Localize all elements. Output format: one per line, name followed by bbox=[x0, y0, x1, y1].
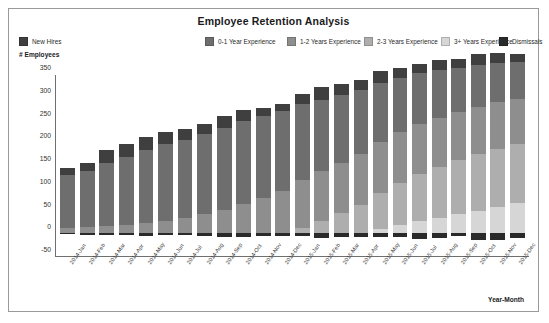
bar-segment bbox=[99, 150, 114, 164]
legend-swatch-icon bbox=[287, 37, 296, 46]
bar-segment bbox=[314, 100, 329, 172]
bar-column: 2015-Aug bbox=[429, 75, 449, 256]
bar-segment bbox=[314, 221, 329, 234]
bar-segment bbox=[334, 95, 349, 162]
bar-segment bbox=[314, 87, 329, 99]
bar-column: 2015-Apr bbox=[351, 75, 371, 256]
dismissals-bar-segment bbox=[217, 233, 232, 237]
dismissals-bar-segment bbox=[373, 233, 388, 237]
bar-segment bbox=[236, 204, 251, 233]
bar-segment bbox=[99, 226, 114, 233]
legend-label: 1-2 Years Experience bbox=[300, 38, 361, 45]
bar-segment bbox=[217, 210, 232, 234]
legend-item: New Hires bbox=[19, 35, 61, 47]
stacked-bar bbox=[256, 108, 271, 234]
dismissals-bar-segment bbox=[80, 233, 95, 234]
stacked-bar bbox=[178, 129, 193, 233]
bar-segment bbox=[393, 68, 408, 78]
bar-segment bbox=[490, 149, 505, 207]
bar-segment bbox=[490, 207, 505, 233]
y-axis-tick: 200 bbox=[40, 132, 51, 139]
bar-segment bbox=[373, 193, 388, 228]
bar-segment bbox=[432, 218, 447, 233]
bar-segment bbox=[451, 59, 466, 68]
stacked-bar bbox=[217, 116, 232, 233]
dismissals-bar-segment bbox=[197, 233, 212, 236]
plot-area: 2014-Jan2014-Feb2014-Mar2014-Apr2014-May… bbox=[55, 75, 529, 257]
dismissals-bar-segment bbox=[334, 233, 349, 237]
bar-segment bbox=[412, 221, 427, 233]
dismissals-bar-segment bbox=[99, 233, 114, 234]
y-axis-label: # Employees bbox=[19, 51, 59, 58]
bar-segment bbox=[275, 111, 290, 191]
bar-segment bbox=[197, 214, 212, 233]
bar-segment bbox=[334, 84, 349, 95]
stacked-bar bbox=[432, 60, 447, 233]
bar-segment bbox=[432, 167, 447, 218]
bar-column: 2015-Feb bbox=[312, 75, 332, 256]
bar-segment bbox=[393, 225, 408, 233]
bar-segment bbox=[314, 171, 329, 220]
dismissals-bar-segment bbox=[158, 233, 173, 235]
bar-segment bbox=[158, 221, 173, 234]
bar-column: 2015-May bbox=[371, 75, 391, 256]
legend-label: New Hires bbox=[32, 38, 61, 45]
stacked-bar bbox=[490, 53, 505, 233]
bar-segment bbox=[80, 171, 95, 227]
dismissals-bar-segment bbox=[412, 233, 427, 238]
bar-column: 2015-Jan bbox=[293, 75, 313, 256]
stacked-bar bbox=[80, 163, 95, 233]
y-axis-tick: 0 bbox=[47, 223, 51, 230]
legend-label: 2-3 Years Experience bbox=[377, 38, 438, 45]
stacked-bar bbox=[158, 132, 173, 233]
stacked-bar bbox=[275, 104, 290, 233]
y-axis-tick: 350 bbox=[40, 64, 51, 71]
x-axis-tick: 2015-Dec bbox=[518, 242, 537, 265]
bar-segment bbox=[80, 163, 95, 171]
bar-segment bbox=[373, 71, 388, 83]
legend-swatch-icon bbox=[364, 37, 373, 46]
bar-segment bbox=[451, 214, 466, 233]
stacked-bar bbox=[314, 87, 329, 233]
bar-segment bbox=[256, 116, 271, 198]
stacked-bar bbox=[373, 71, 388, 233]
bar-segment bbox=[334, 213, 349, 233]
bar-segment bbox=[256, 198, 271, 233]
bar-column: 2014-Dec bbox=[273, 75, 293, 256]
bar-column: 2014-May bbox=[136, 75, 156, 256]
dismissals-bar-segment bbox=[119, 233, 134, 234]
bar-segment bbox=[510, 62, 525, 98]
bar-segment bbox=[119, 225, 134, 233]
stacked-bar bbox=[334, 84, 349, 233]
dismissals-bar-segment bbox=[275, 233, 290, 235]
bar-column: 2014-Mar bbox=[97, 75, 117, 256]
bar-segment bbox=[236, 121, 251, 204]
dismissals-bar-segment bbox=[139, 233, 154, 235]
bar-segment bbox=[158, 144, 173, 220]
bar-segment bbox=[373, 142, 388, 193]
dismissals-bar-segment bbox=[236, 233, 251, 237]
y-axis-tick: 300 bbox=[40, 86, 51, 93]
bar-segment bbox=[119, 144, 134, 157]
bar-segment bbox=[471, 54, 486, 65]
dismissals-bar-segment bbox=[510, 233, 525, 238]
dismissals-bar-segment bbox=[451, 233, 466, 236]
stacked-bar bbox=[393, 68, 408, 234]
bar-column: 2015-Sep bbox=[449, 75, 469, 256]
bar-segment bbox=[471, 154, 486, 210]
bar-segment bbox=[393, 78, 408, 133]
bar-column: 2014-Jun bbox=[156, 75, 176, 256]
bar-segment bbox=[471, 211, 486, 234]
stacked-bar bbox=[99, 150, 114, 234]
bar-segment bbox=[373, 83, 388, 142]
bar-segment bbox=[412, 124, 427, 174]
legend-swatch-icon bbox=[441, 37, 450, 46]
legend-item: 1-2 Years Experience bbox=[287, 35, 361, 47]
bar-segment bbox=[295, 180, 310, 227]
stacked-bar bbox=[295, 94, 310, 233]
bar-segment bbox=[354, 154, 369, 205]
chart-legend: New Hires0-1 Year Experience1-2 Years Ex… bbox=[19, 35, 530, 47]
bar-segment bbox=[139, 223, 154, 233]
bar-segment bbox=[412, 73, 427, 124]
bar-column: 2015-Nov bbox=[488, 75, 508, 256]
